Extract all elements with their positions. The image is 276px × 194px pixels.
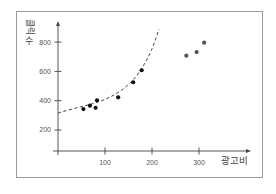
y-tick-label: 400 (39, 97, 51, 104)
y-axis-title-rotated: 클릭 (25, 19, 34, 35)
y-axis-title-upright: 수 (25, 37, 33, 46)
y-tick-label: 800 (39, 39, 51, 46)
data-point (81, 107, 85, 111)
data-point (131, 80, 135, 84)
x-axis-title: 광고비 (221, 155, 248, 166)
data-point (95, 98, 99, 102)
scatter-chart: 200400600800100200300 광고비 (0, 0, 276, 194)
data-point (94, 106, 98, 110)
y-tick-label: 200 (39, 126, 51, 133)
data-point (140, 68, 144, 72)
y-axis-title: 클릭 수 (23, 17, 35, 46)
y-tick-label: 600 (39, 68, 51, 75)
data-point (116, 95, 120, 99)
data-point (195, 50, 199, 54)
x-tick-label: 200 (146, 159, 158, 166)
x-tick-label: 100 (99, 159, 111, 166)
data-point (88, 104, 92, 108)
x-tick-label: 300 (193, 159, 205, 166)
chart-frame (17, 12, 263, 178)
data-point (184, 54, 188, 58)
data-point (202, 41, 206, 45)
